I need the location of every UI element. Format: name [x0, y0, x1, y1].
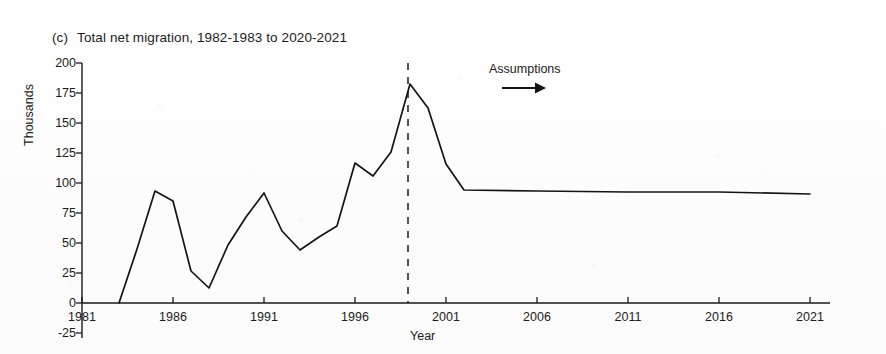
chart-canvas — [0, 0, 886, 354]
x-tick-marks — [82, 297, 810, 303]
axis-lines — [82, 63, 830, 338]
migration-line-series — [119, 84, 810, 303]
assumptions-arrow-icon — [502, 83, 546, 94]
chart-figure: (c)Total net migration, 1982-1983 to 202… — [0, 0, 886, 354]
y-tick-marks — [76, 63, 82, 333]
